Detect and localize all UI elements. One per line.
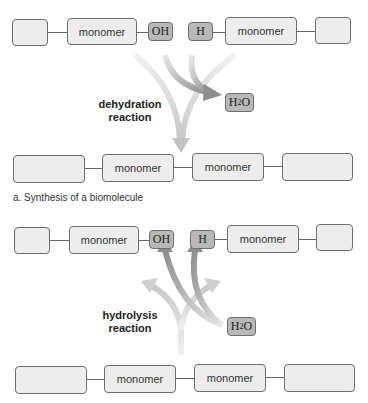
- label-line: hydrolysis: [95, 309, 165, 322]
- dehydration-label: dehydration reaction: [95, 98, 165, 124]
- bond-line: [176, 378, 194, 379]
- hydrogen-group: H: [190, 230, 215, 249]
- formula-part: H: [231, 319, 240, 334]
- monomer-box: monomer: [225, 17, 297, 45]
- water-byproduct: H2O: [225, 93, 254, 112]
- monomer-box: monomer: [69, 226, 139, 254]
- label-line: reaction: [95, 322, 165, 335]
- bond-line: [50, 240, 69, 241]
- monomer-box: monomer: [192, 153, 264, 181]
- bond-line: [85, 168, 102, 169]
- bond-line: [266, 377, 284, 378]
- bond-line: [215, 239, 227, 240]
- polymer-end-box: [315, 17, 351, 44]
- monomer-box: monomer: [104, 365, 176, 393]
- bond-line: [264, 166, 282, 167]
- bond-line: [299, 239, 316, 240]
- panel-a-caption: a. Synthesis of a biomolecule: [13, 192, 143, 203]
- polymer-end-box: [12, 19, 48, 46]
- hydrolysis-arrows: [141, 239, 222, 355]
- polymer-end-box: [15, 366, 87, 394]
- bond-line: [48, 32, 67, 33]
- polymer-end-box: [316, 224, 353, 251]
- hydroxyl-group: OH: [149, 230, 174, 249]
- bond-line: [174, 167, 192, 168]
- formula-part: O: [242, 95, 251, 110]
- monomer-box: monomer: [227, 225, 299, 253]
- hydrolysis-label: hydrolysis reaction: [95, 309, 165, 335]
- bond-line: [213, 32, 225, 33]
- polymer-end-box: [13, 155, 85, 183]
- bond-line: [297, 31, 315, 32]
- monomer-box: monomer: [67, 18, 137, 45]
- formula-part: O: [244, 319, 253, 334]
- hydroxyl-group: OH: [148, 22, 173, 41]
- monomer-box: monomer: [194, 364, 266, 392]
- water-reactant: H2O: [227, 317, 256, 336]
- label-line: dehydration: [95, 98, 165, 111]
- polymer-end-box: [14, 227, 50, 254]
- polymer-end-box: [282, 153, 353, 181]
- label-line: reaction: [95, 111, 165, 124]
- monomer-box: monomer: [102, 154, 174, 182]
- polymer-end-box: [284, 364, 355, 392]
- hydrogen-group: H: [188, 22, 213, 41]
- formula-part: H: [229, 95, 238, 110]
- bond-line: [87, 379, 104, 380]
